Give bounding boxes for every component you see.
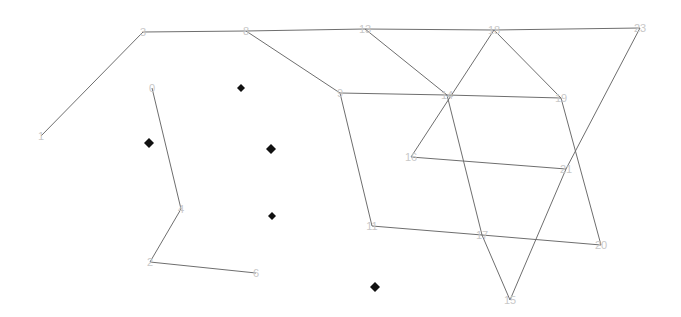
- graph-canvas: 012346891113141516171819202123: [0, 0, 681, 317]
- node-label-9: 9: [337, 87, 343, 99]
- node-label-15: 15: [504, 294, 516, 306]
- edge-3-8: [143, 31, 246, 32]
- diamond-marker-icon: [144, 138, 154, 148]
- node-label-17: 17: [476, 229, 488, 241]
- node-label-23: 23: [634, 22, 646, 34]
- node-label-18: 18: [488, 24, 500, 36]
- edge-9-11: [340, 93, 372, 226]
- edge-1-3: [41, 32, 143, 136]
- edge-11-17: [372, 226, 482, 235]
- edge-layer: [41, 28, 640, 300]
- node-label-14: 14: [441, 89, 453, 101]
- node-label-6: 6: [253, 267, 259, 279]
- edge-17-20: [482, 235, 601, 245]
- diamond-marker-icon: [237, 84, 245, 92]
- edge-8-13: [246, 29, 365, 31]
- node-label-0: 0: [149, 82, 155, 94]
- node-label-8: 8: [243, 25, 249, 37]
- edge-4-2: [150, 209, 181, 262]
- node-label-1: 1: [38, 130, 44, 142]
- node-label-13: 13: [359, 23, 371, 35]
- node-label-20: 20: [595, 239, 607, 251]
- node-label-16: 16: [405, 151, 417, 163]
- marker-layer: [144, 84, 380, 292]
- edge-14-17: [447, 95, 482, 235]
- edge-16-21: [411, 157, 566, 169]
- edge-13-18: [365, 29, 494, 30]
- edge-2-6: [150, 262, 256, 273]
- edge-0-4: [152, 88, 181, 209]
- node-label-2: 2: [147, 256, 153, 268]
- node-label-layer: 012346891113141516171819202123: [38, 22, 646, 306]
- node-label-21: 21: [560, 163, 572, 175]
- edge-8-9: [246, 31, 340, 93]
- node-label-3: 3: [140, 26, 146, 38]
- edge-17-15: [482, 235, 510, 300]
- diamond-marker-icon: [370, 282, 380, 292]
- node-label-11: 11: [366, 220, 377, 232]
- edge-13-14: [365, 29, 447, 95]
- node-label-4: 4: [178, 203, 184, 215]
- edge-23-21: [566, 28, 640, 169]
- edge-18-23: [494, 28, 640, 30]
- diamond-marker-icon: [266, 144, 276, 154]
- edge-14-19: [447, 95, 561, 98]
- diamond-marker-icon: [268, 212, 276, 220]
- edge-9-14: [340, 93, 447, 95]
- node-label-19: 19: [555, 92, 567, 104]
- edge-21-15: [510, 169, 566, 300]
- edge-18-19: [494, 30, 561, 98]
